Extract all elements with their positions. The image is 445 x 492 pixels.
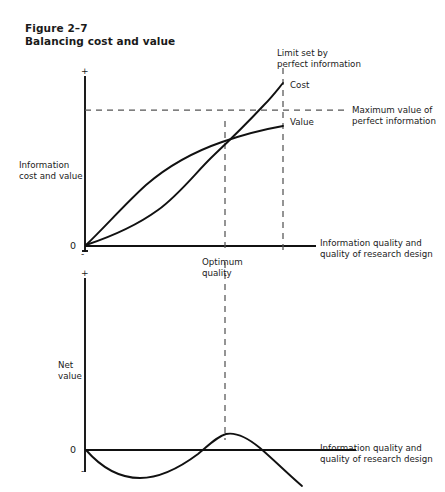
perfect-information-limit-annotation: Limit set by perfect information <box>277 48 361 70</box>
top-y-minus-sign: - <box>81 249 84 259</box>
top-y-axis-label-line2: cost and value <box>19 171 83 182</box>
figure-root: Figure 2–7 Balancing cost and value + - … <box>0 0 445 492</box>
bottom-x-axis-label: Information quality and quality of resea… <box>320 443 433 465</box>
optimum-quality-label-line1: Optimum <box>202 257 243 268</box>
limit-annotation-line2: perfect information <box>277 59 361 70</box>
bottom-x-axis-label-line1: Information quality and <box>320 443 433 454</box>
value-curve-label: Value <box>290 117 314 128</box>
top-y-axis-label-line1: Information <box>19 160 83 171</box>
optimum-quality-label: Optimum quality <box>202 257 243 279</box>
top-y-zero-label: 0 <box>70 240 76 251</box>
bottom-y-axis-label: Net value <box>58 360 82 382</box>
top-x-axis-label: Information quality and quality of resea… <box>320 238 433 260</box>
limit-annotation-line1: Limit set by <box>277 48 361 59</box>
bottom-y-minus-sign: - <box>81 466 84 476</box>
cost-curve-label: Cost <box>290 80 309 91</box>
top-x-axis-label-line1: Information quality and <box>320 238 433 249</box>
optimum-quality-label-line2: quality <box>202 268 243 279</box>
bottom-y-zero-label: 0 <box>70 444 76 455</box>
max-value-annotation-line1: Maximum value of <box>352 105 436 116</box>
top-y-plus-sign: + <box>81 66 89 76</box>
bottom-y-plus-sign: + <box>81 268 89 278</box>
bottom-y-axis-label-line2: value <box>58 371 82 382</box>
top-x-axis-label-line2: quality of research design <box>320 249 433 260</box>
net-value-curve <box>86 434 302 486</box>
top-y-axis-label: Information cost and value <box>19 160 83 182</box>
cost-curve <box>86 83 283 245</box>
max-value-annotation-line2: perfect information <box>352 116 436 127</box>
max-value-annotation: Maximum value of perfect information <box>352 105 436 127</box>
bottom-x-axis-label-line2: quality of research design <box>320 454 433 465</box>
bottom-y-axis-label-line1: Net <box>58 360 82 371</box>
